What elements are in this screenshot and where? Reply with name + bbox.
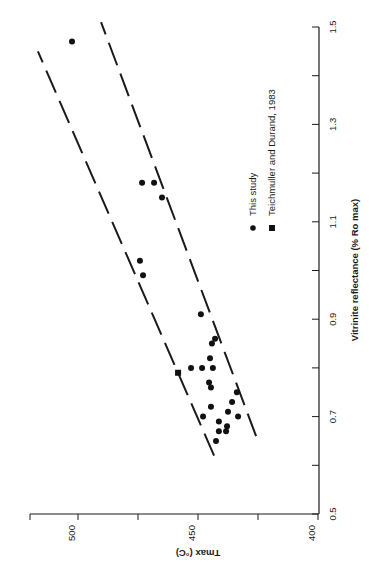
- ro-tick-label: 1.5: [327, 20, 338, 33]
- legend: This studyTeichmuller and Durand, 1983: [247, 89, 277, 231]
- data-points: [69, 39, 241, 444]
- ro-tick-label: 0.7: [327, 410, 338, 423]
- circle-marker: [159, 194, 165, 200]
- ro-tick-label: 0.9: [327, 313, 338, 326]
- circle-marker: [216, 418, 222, 424]
- circle-marker: [200, 414, 206, 420]
- legend-label: Teichmuller and Durand, 1983: [266, 89, 277, 216]
- circle-marker: [140, 272, 146, 278]
- circle-marker: [210, 365, 216, 371]
- dashed-boundary-line: [38, 51, 214, 455]
- y-axis-label: Tmax (°C): [176, 548, 220, 559]
- circle-marker: [151, 180, 157, 186]
- circle-marker: [137, 258, 143, 264]
- circle-marker: [234, 389, 240, 395]
- x-axis-label: Vitrinite reflectance (% Ro max): [349, 199, 360, 341]
- legend-label: This study: [247, 172, 258, 216]
- axes: 0.50.70.91.11.31.5400450500: [30, 20, 338, 541]
- ro-tick-label: 1.1: [327, 215, 338, 228]
- axis-labels: Vitrinite reflectance (% Ro max) Tmax (°…: [176, 199, 360, 559]
- circle-marker: [198, 311, 204, 317]
- tmax-tick-label: 500: [66, 525, 77, 541]
- square-marker: [175, 370, 181, 376]
- scatter-chart: 0.50.70.91.11.31.5400450500 This studyTe…: [0, 0, 369, 579]
- ro-tick-label: 0.5: [327, 507, 338, 520]
- circle-marker: [139, 180, 145, 186]
- circle-marker: [199, 365, 205, 371]
- legend-square-icon: [269, 225, 275, 231]
- tmax-tick-label: 400: [306, 525, 317, 541]
- reference-lines: [38, 22, 256, 455]
- ro-tick-label: 1.3: [327, 118, 338, 131]
- circle-marker: [69, 39, 75, 45]
- circle-marker: [207, 355, 213, 361]
- circle-marker: [212, 336, 218, 342]
- legend-circle-icon: [250, 225, 256, 231]
- circle-marker: [235, 414, 241, 420]
- tmax-tick-label: 450: [186, 525, 197, 541]
- circle-marker: [216, 428, 222, 434]
- circle-marker: [208, 404, 214, 410]
- circle-marker: [188, 365, 194, 371]
- circle-marker: [208, 384, 214, 390]
- circle-marker: [229, 399, 235, 405]
- circle-marker: [223, 428, 229, 434]
- circle-marker: [213, 438, 219, 444]
- circle-marker: [225, 409, 231, 415]
